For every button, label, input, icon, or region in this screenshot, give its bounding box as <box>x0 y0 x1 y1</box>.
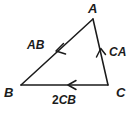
vertex-label-b: B <box>4 85 13 100</box>
vector-triangle-figure: A B C AB CA 2CB <box>0 0 132 117</box>
triangle-side-ca <box>93 19 108 85</box>
vertex-label-a: A <box>87 1 97 16</box>
vector-label-ab: AB <box>26 38 45 52</box>
vector-label-cb-name: CB <box>59 93 77 107</box>
vector-triangle-diagram: A B C AB CA 2CB <box>0 0 132 117</box>
vertex-label-c: C <box>116 85 126 100</box>
vector-label-cb: 2CB <box>52 93 76 107</box>
vector-label-ca: CA <box>109 45 126 59</box>
